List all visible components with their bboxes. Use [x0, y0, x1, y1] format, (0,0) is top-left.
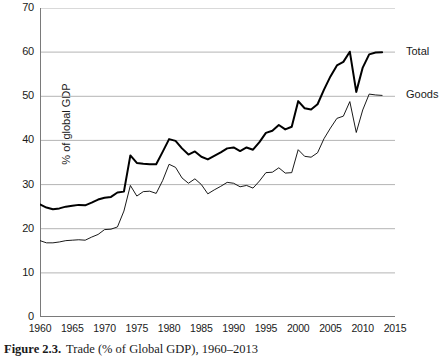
y-tick-label-60: 60 — [4, 46, 34, 57]
figure-container: % of global GDP 010203040506070 19601965… — [0, 0, 442, 364]
y-tick-label-0: 0 — [4, 311, 34, 322]
figure-number: Figure 2.3. — [4, 342, 61, 356]
y-tick-label-10: 10 — [4, 267, 34, 278]
x-tick-label-2015: 2015 — [375, 323, 415, 334]
y-tick-label-70: 70 — [4, 2, 34, 13]
series-line-total — [40, 52, 382, 210]
y-tick-label-30: 30 — [4, 179, 34, 190]
series-line-goods — [40, 94, 382, 243]
series-label-total: Total — [406, 46, 429, 57]
plot-region — [40, 8, 395, 317]
plot-svg — [40, 8, 395, 317]
y-tick-label-50: 50 — [4, 90, 34, 101]
y-tick-label-40: 40 — [4, 134, 34, 145]
y-tick-label-20: 20 — [4, 223, 34, 234]
figure-caption: Figure 2.3.Trade (% of Global GDP), 1960… — [4, 342, 434, 357]
chart-area: % of global GDP 010203040506070 19601965… — [0, 0, 442, 336]
caption-text: Trade (% of Global GDP), 1960–2013 — [66, 342, 258, 356]
series-label-goods: Goods — [406, 89, 438, 100]
